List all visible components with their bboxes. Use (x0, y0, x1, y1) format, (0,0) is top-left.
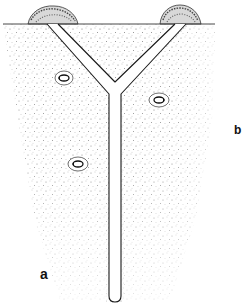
panel-label-b: b (234, 124, 241, 136)
mound-right (160, 5, 201, 24)
mound-left (28, 6, 78, 24)
burrow-diagram (0, 0, 242, 306)
cocoon-2 (149, 93, 169, 107)
panel-label-a: a (40, 267, 48, 281)
cocoon-1 (55, 71, 73, 85)
cocoon-3 (68, 157, 88, 171)
